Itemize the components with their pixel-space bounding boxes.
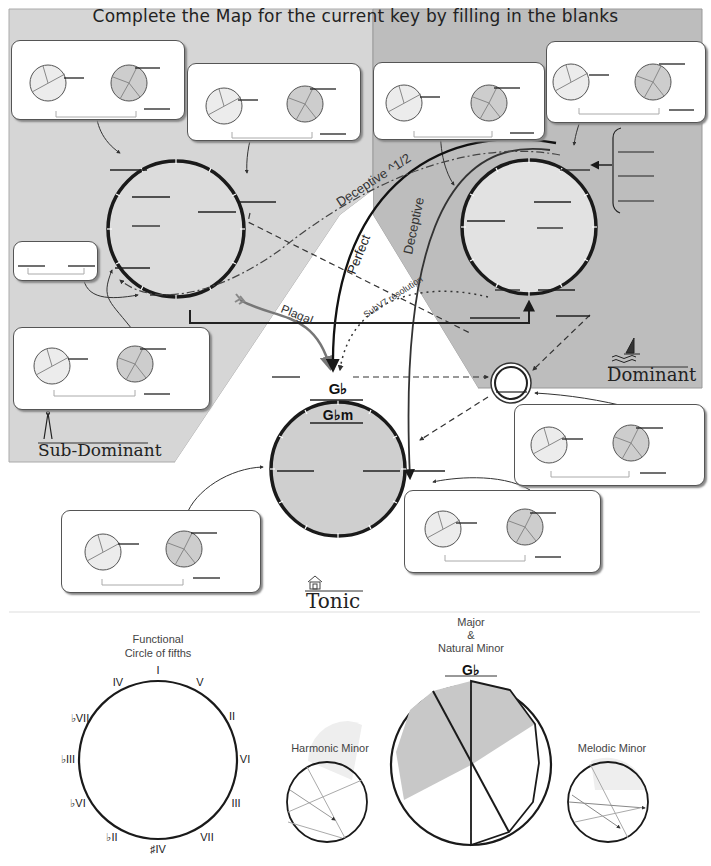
page-title: Complete the Map for the current key by … (0, 6, 711, 26)
dominant-label: Dominant (607, 364, 696, 385)
svg-text:III: III (231, 797, 240, 809)
harmonic-minor-circle (287, 721, 367, 842)
functional-degree-labels: I V II VI III VII ♯IV ♭II ♭VI ♭III ♭VII … (61, 664, 250, 855)
svg-text:♯IV: ♯IV (150, 843, 167, 855)
chord-card-dominant-3 (514, 404, 705, 486)
tonic-key-minor: G♭m (323, 407, 353, 423)
melodic-minor-title: Melodic Minor (562, 742, 662, 754)
chord-card-subdominant-3 (13, 327, 210, 410)
svg-text:II: II (229, 710, 235, 722)
card-diagram (515, 405, 704, 485)
card-diagram (62, 511, 260, 592)
harmonic-map-worksheet: Deceptive ^1/2 Perfect Deceptive Plagal … (0, 0, 711, 866)
svg-text:VI: VI (240, 753, 250, 765)
chord-card-dominant-1 (373, 62, 545, 140)
major-natural-minor-circle: G♭ (391, 662, 551, 845)
svg-text:♭VI: ♭VI (70, 797, 85, 809)
harmonic-minor-title: Harmonic Minor (280, 742, 380, 754)
chord-card-subdominant-2 (187, 63, 361, 141)
card-diagram (14, 242, 97, 280)
melodic-minor-circle (568, 758, 648, 842)
card-diagram (14, 328, 209, 409)
house-icon (308, 576, 322, 589)
blank-card-small (13, 241, 98, 281)
svg-text:IV: IV (113, 676, 124, 688)
tonic-key-major: G♭ (329, 380, 348, 397)
secondary-target-circle (491, 363, 531, 403)
card-diagram (374, 63, 544, 139)
svg-text:VII: VII (200, 831, 213, 843)
major-key-label: G♭ (462, 662, 480, 678)
dominant-circle (461, 158, 597, 296)
card-diagram (405, 491, 600, 572)
svg-text:♭VII: ♭VII (71, 712, 89, 724)
tonic-label: Tonic (306, 589, 360, 613)
svg-text:I: I (156, 664, 159, 676)
svg-text:♭II: ♭II (106, 831, 117, 843)
chord-card-tonic-right (404, 490, 601, 573)
chord-card-subdominant-1 (11, 40, 185, 120)
subdominant-label: Sub-Dominant (38, 440, 162, 460)
functional-title: Functional Circle of fifths (108, 632, 208, 660)
chord-card-dominant-2 (546, 41, 706, 123)
card-diagram (188, 64, 360, 140)
svg-text:V: V (196, 676, 204, 688)
card-diagram (547, 42, 705, 122)
card-diagram (12, 41, 184, 119)
functional-circle (79, 681, 237, 839)
major-natural-minor-title: Major & Natural Minor (421, 616, 521, 655)
chord-card-tonic-left (61, 510, 261, 593)
svg-text:♭III: ♭III (61, 753, 75, 765)
